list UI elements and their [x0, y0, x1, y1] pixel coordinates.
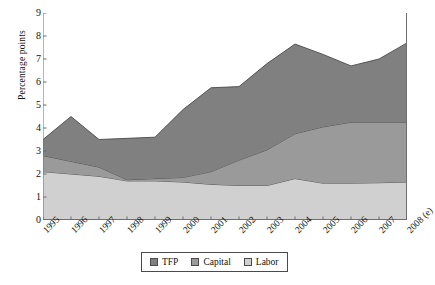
- y-tick-label: 3: [27, 146, 41, 156]
- plot-svg: [43, 13, 407, 220]
- legend-item[interactable]: TFP: [150, 257, 178, 267]
- x-tick-label: 2008 (e): [405, 205, 435, 235]
- legend-swatch-icon: [191, 258, 199, 266]
- y-tick-label: 1: [27, 192, 41, 202]
- legend-swatch-icon: [150, 258, 158, 266]
- y-tick-label: 6: [27, 77, 41, 87]
- legend-item[interactable]: Labor: [244, 257, 279, 267]
- y-tick-label: 9: [27, 8, 41, 18]
- y-tick-label: 0: [27, 215, 41, 225]
- y-tick-label: 2: [27, 169, 41, 179]
- plot-area: [43, 13, 407, 220]
- chart-legend: TFPCapitalLabor: [141, 252, 288, 272]
- y-tick-label: 7: [27, 54, 41, 64]
- series-layers: [43, 43, 407, 220]
- legend-item[interactable]: Capital: [191, 257, 230, 267]
- y-tick-label: 4: [27, 123, 41, 133]
- y-tick-label: 5: [27, 100, 41, 110]
- legend-label: TFP: [162, 257, 178, 267]
- legend-label: Labor: [256, 257, 279, 267]
- legend-label: Capital: [203, 257, 230, 267]
- legend-swatch-icon: [244, 258, 252, 266]
- y-axis-ticks: 0123456789: [21, 0, 41, 233]
- y-tick-label: 8: [27, 31, 41, 41]
